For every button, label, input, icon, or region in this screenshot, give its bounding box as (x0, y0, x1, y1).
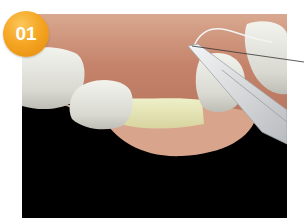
step-number-badge: 01 (3, 11, 49, 57)
callout-line (192, 45, 304, 65)
tooth-center (70, 80, 133, 129)
step-number: 01 (15, 23, 36, 45)
